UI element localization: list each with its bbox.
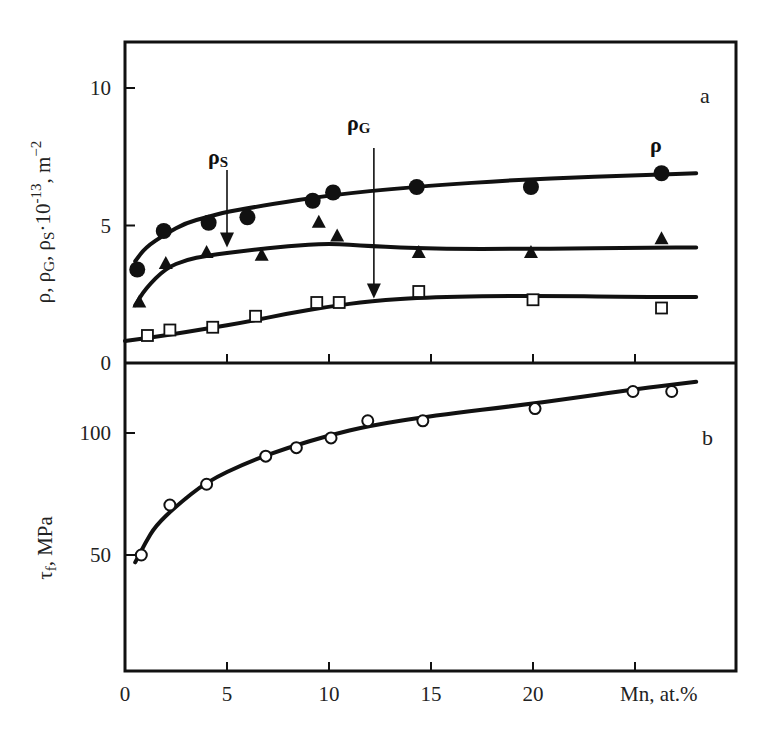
data-point-triangle — [200, 245, 214, 258]
data-point-circle — [325, 185, 341, 201]
data-point-square — [656, 303, 667, 314]
data-point-circle — [129, 262, 145, 278]
panel-b-ylabel: τf, MPa — [33, 516, 59, 580]
data-point-square — [311, 297, 322, 308]
data-point-open-circle — [530, 403, 541, 414]
data-point-square — [334, 297, 345, 308]
data-point-open-circle — [291, 442, 302, 453]
label-rho-g: ρG — [347, 110, 371, 136]
data-point-triangle — [330, 229, 344, 242]
data-point-square — [250, 311, 261, 322]
data-point-open-circle — [201, 479, 212, 490]
data-point-triangle — [312, 215, 326, 228]
data-point-triangle — [655, 231, 669, 244]
x-tick-label: 15 — [421, 682, 442, 706]
panel-b-letter: b — [702, 425, 713, 450]
data-point-open-circle — [136, 550, 147, 561]
y-tick-label: 0 — [101, 351, 112, 375]
x-tick-label: 20 — [523, 682, 544, 706]
x-tick-label: 0 — [120, 682, 131, 706]
y-tick-label: 10 — [90, 76, 111, 100]
data-point-circle — [305, 193, 321, 209]
x-axis-title: Mn, at.% — [620, 682, 698, 706]
svg-text:ρG: ρG — [347, 110, 371, 136]
panel-a-letter: a — [700, 83, 710, 108]
data-point-open-circle — [260, 451, 271, 462]
figure: 0510 0510152050100 a b Mn, at.% ρ, ρG, ρ… — [0, 0, 773, 747]
data-point-circle — [523, 179, 539, 195]
data-point-triangle — [132, 295, 146, 308]
x-tick-label: 5 — [222, 682, 233, 706]
panel-a: 0510 — [90, 76, 696, 375]
data-point-square — [207, 322, 218, 333]
svg-text:ρS: ρS — [208, 144, 228, 170]
svg-text:τf, MPa: τf, MPa — [33, 516, 59, 580]
panel-b: 0510152050100 — [80, 382, 697, 706]
data-point-circle — [239, 209, 255, 225]
data-point-open-circle — [627, 386, 638, 397]
data-point-square — [142, 330, 153, 341]
label-rho-s: ρS — [208, 144, 228, 170]
y-tick-label: 100 — [80, 421, 112, 445]
data-point-square — [528, 294, 539, 305]
data-point-open-circle — [326, 432, 337, 443]
data-point-circle — [201, 215, 217, 231]
data-point-open-circle — [164, 499, 175, 510]
y-tick-label: 5 — [101, 214, 112, 238]
data-point-open-circle — [362, 415, 373, 426]
data-point-circle — [156, 223, 172, 239]
fit-curve-τf — [135, 382, 696, 563]
arrow-head-icon — [220, 233, 234, 248]
data-point-square — [413, 286, 424, 297]
y-tick-label: 50 — [90, 543, 111, 567]
data-point-square — [164, 325, 175, 336]
data-point-circle — [654, 165, 670, 181]
panel-a-ylabel: ρ, ρG, ρS·10-13, m−2 — [28, 141, 57, 303]
data-point-triangle — [159, 256, 173, 269]
data-point-open-circle — [666, 386, 677, 397]
data-point-open-circle — [417, 415, 428, 426]
fit-curve-ρG — [125, 296, 696, 341]
svg-text:ρ, ρG, ρS·10-13, m−2: ρ, ρG, ρS·10-13, m−2 — [28, 141, 57, 303]
x-tick-label: 10 — [319, 682, 340, 706]
data-point-circle — [409, 179, 425, 195]
label-rho: ρ — [650, 132, 662, 157]
arrow-head-icon — [367, 283, 381, 298]
